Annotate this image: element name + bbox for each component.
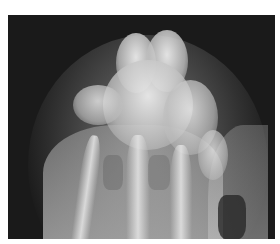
xray-image (8, 15, 275, 239)
gap-left (103, 155, 123, 190)
right-lower-dark (218, 195, 246, 239)
center-shaft (126, 135, 150, 239)
left-condyle (73, 85, 123, 125)
gap-right (148, 155, 170, 190)
right-oval-bone (198, 130, 228, 180)
right-shaft (170, 145, 192, 239)
